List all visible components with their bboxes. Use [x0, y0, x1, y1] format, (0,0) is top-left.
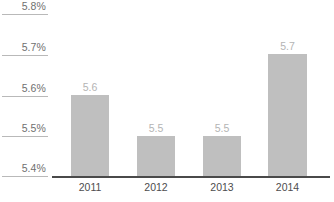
bar-group-2011: 5.6: [71, 0, 109, 176]
y-axis-tick-label: 5.4%: [22, 163, 46, 174]
bar-2012: [137, 136, 175, 176]
y-axis-tick-line: [2, 14, 48, 15]
bar-value-label: 5.7: [268, 41, 307, 52]
bar-value-label: 5.6: [71, 82, 109, 93]
bar-chart: 5.8% 5.7% 5.6% 5.5% 5.4% 5.6 2011 5.5: [0, 0, 334, 202]
bar-value-label: 5.5: [203, 123, 241, 134]
y-axis: 5.8% 5.7% 5.6% 5.5% 5.4%: [0, 0, 52, 202]
plot-area: 5.6 2011 5.5 2012 5.5 2013 5.7 2014: [52, 0, 334, 202]
y-axis-tick-line: [2, 55, 48, 56]
bar-value-label: 5.5: [137, 123, 175, 134]
y-axis-tick-line: [2, 96, 48, 97]
y-axis-tick-label: 5.8%: [22, 1, 46, 12]
bar-2011: [71, 95, 109, 176]
bar-group-2012: 5.5: [137, 0, 175, 176]
y-axis-tick-line: [2, 176, 48, 177]
y-axis-tick-line: [2, 136, 48, 137]
x-axis-label-2013: 2013: [203, 181, 241, 193]
bar-group-2014: 5.7: [268, 0, 307, 176]
bar-group-2013: 5.5: [203, 0, 241, 176]
y-axis-tick-label: 5.5%: [22, 123, 46, 134]
x-axis-baseline: [52, 176, 330, 178]
bar-2013: [203, 136, 241, 176]
x-axis-label-2014: 2014: [268, 181, 307, 193]
y-axis-tick-label: 5.6%: [22, 83, 46, 94]
x-axis-label-2012: 2012: [137, 181, 175, 193]
bar-2014: [268, 54, 307, 176]
x-axis-label-2011: 2011: [71, 181, 109, 193]
y-axis-tick-label: 5.7%: [22, 42, 46, 53]
